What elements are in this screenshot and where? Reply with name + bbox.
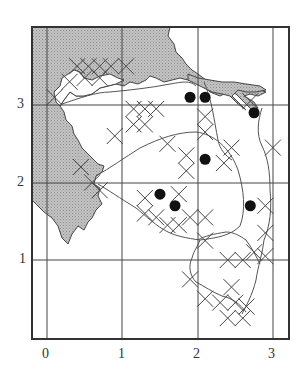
cross-marker	[216, 155, 232, 171]
x-tick-0: 0	[42, 346, 49, 362]
dot-marker	[245, 200, 256, 211]
cross-marker	[178, 147, 194, 163]
dot-marker	[185, 92, 196, 103]
cross-marker	[159, 136, 175, 152]
y-tick-3: 3	[17, 96, 24, 112]
cross-marker	[171, 217, 187, 233]
distribution-map	[0, 0, 308, 383]
sea-area	[32, 27, 266, 244]
x-tick-3: 3	[268, 346, 275, 362]
cross-marker	[178, 163, 194, 179]
cross-marker	[223, 140, 239, 156]
cross-marker	[182, 209, 198, 225]
cross-marker	[212, 295, 228, 311]
cross-marker	[148, 101, 164, 117]
dot-marker	[200, 92, 211, 103]
cross-marker	[197, 109, 213, 125]
cross-marker	[257, 225, 273, 241]
y-tick-1: 1	[19, 251, 26, 267]
cross-marker	[107, 128, 123, 144]
cross-marker	[223, 279, 239, 295]
dot-marker	[154, 189, 165, 200]
cross-marker	[227, 295, 243, 311]
cross-marker	[197, 209, 213, 225]
cross-marker	[220, 310, 236, 326]
cross-marker	[148, 209, 164, 225]
cross-marker	[137, 190, 153, 206]
cross-marker	[257, 248, 273, 264]
cross-marker	[171, 186, 187, 202]
y-tick-2: 2	[17, 174, 24, 190]
x-tick-2: 2	[193, 346, 200, 362]
cross-marker	[137, 116, 153, 132]
cross-marker	[137, 206, 153, 222]
cross-marker	[246, 244, 262, 260]
cross-marker	[197, 291, 213, 307]
dot-marker	[200, 154, 211, 165]
cross-marker	[182, 271, 198, 287]
x-tick-1: 1	[118, 346, 125, 362]
